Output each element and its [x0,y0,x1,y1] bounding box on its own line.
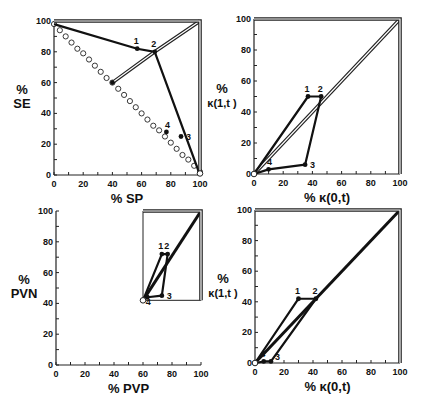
data-point [152,49,157,54]
y-tick-label: 80 [41,47,51,57]
y-tick-label: 40 [241,107,251,117]
panel-kappa1-vs-kappa0-bottom: 020406080100020406080100% κ(0,t)%κ(1,t )… [208,205,407,394]
open-point-marker [252,360,258,366]
y-axis-label: κ(1,t ) [207,97,237,109]
reference-circle-marker [157,128,162,133]
reference-circle-marker [86,57,91,62]
reference-circle-marker [145,117,150,122]
point-label: 1 [305,84,310,94]
diagonal-line [143,211,201,300]
y-tick-label: 0 [246,169,251,179]
double-line-outer [54,21,200,175]
reference-circle-marker [186,157,191,162]
x-tick-label: 60 [137,179,147,189]
reference-circle-marker [127,98,132,103]
reference-circle-marker [69,40,74,45]
point-label: 1 [158,241,163,251]
data-point [164,129,169,134]
y-tick-label: 60 [241,76,251,86]
y-tick-label: 100 [36,16,51,26]
open-point-marker [140,298,146,304]
reference-circle-marker [98,69,103,74]
point-label: 1 [295,286,300,296]
y-tick-label: 20 [43,329,53,339]
point-label: 2 [164,241,169,251]
point-label: 4 [260,349,265,359]
y-tick-label: 100 [237,205,252,215]
panel-se-vs-sp: 020406080100020406080100% SP%SE1234 [13,16,207,206]
x-axis-label: % κ(0,t) [304,379,350,394]
data-point [296,296,301,301]
y-axis-label: % [18,272,30,287]
figure-canvas: 020406080100020406080100% SP%SE1234 0204… [0,0,422,409]
x-axis-label: % κ(0,t) [304,190,350,205]
reference-circle-marker [81,51,86,56]
point-label: 4 [165,120,170,130]
x-tick-label: 20 [78,179,88,189]
data-point [319,94,324,99]
y-tick-label: 40 [43,298,53,308]
panel-pvn-vs-pvp: 020406080100020406080100% PVP%PVN1234 [11,206,209,396]
y-tick-label: 0 [48,360,53,370]
reference-circle-marker [180,152,185,157]
reference-circle-marker [168,140,173,145]
y-tick-label: 40 [242,297,252,307]
data-point [159,252,164,257]
data-point [165,252,170,257]
y-tick-label: 100 [38,206,53,216]
data-point [266,167,271,172]
x-axis-label: % SP [111,191,144,206]
point-label: 3 [167,291,172,301]
y-axis-label: % [16,82,28,97]
data-point [110,80,115,85]
data-point [306,94,311,99]
x-tick-label: 100 [192,179,207,189]
y-tick-label: 0 [247,358,252,368]
x-tick-label: 20 [278,178,288,188]
x-tick-label: 20 [80,369,90,379]
y-axis-label: SE [13,96,31,111]
y-tick-label: 60 [242,266,252,276]
x-tick-label: 100 [193,369,208,379]
double-line-inner [54,21,200,175]
point-label: 2 [318,84,323,94]
x-axis-label: % PVP [108,381,150,396]
y-tick-label: 60 [41,78,51,88]
x-tick-label: 100 [392,367,407,377]
x-tick-label: 100 [392,178,407,188]
y-tick-label: 0 [46,170,51,180]
x-tick-label: 40 [308,367,318,377]
x-tick-label: 40 [307,178,317,188]
y-tick-label: 100 [236,14,251,24]
reference-circle-marker [104,75,109,80]
x-tick-label: 0 [53,369,58,379]
x-tick-label: 80 [366,178,376,188]
x-tick-label: 60 [337,367,347,377]
x-tick-label: 80 [167,369,177,379]
reference-circle-marker [162,134,167,139]
double-line-inner [254,19,400,174]
x-tick-label: 0 [252,367,257,377]
x-tick-label: 60 [337,178,347,188]
y-axis-label: PVN [11,286,38,301]
y-axis-label: % [216,81,228,96]
reference-circle-marker [92,63,97,68]
point-label: 4 [146,297,151,307]
data-point [261,359,266,364]
reference-circle-marker [121,92,126,97]
reference-circle-marker [63,34,68,39]
y-tick-label: 40 [41,108,51,118]
open-point-marker [197,171,203,177]
reference-circle-marker [133,105,138,110]
point-label: 4 [267,157,272,167]
y-tick-label: 60 [43,268,53,278]
x-tick-label: 40 [109,369,119,379]
point-label: 3 [186,132,191,142]
reference-circle-marker [174,146,179,151]
point-label: 1 [134,36,139,46]
x-tick-label: 0 [51,179,56,189]
diagonal-line [255,210,400,363]
data-point [269,359,274,364]
y-tick-label: 80 [242,236,252,246]
y-tick-label: 20 [242,327,252,337]
